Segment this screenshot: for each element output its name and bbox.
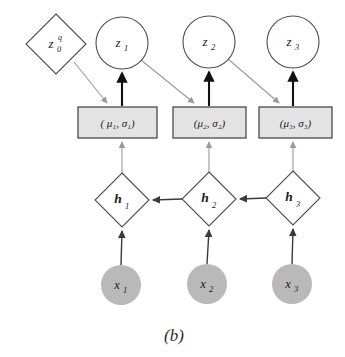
params-1-label: ( μ₁, σ₁) <box>100 117 135 130</box>
node-params-3[interactable]: (μ₃, σ₃) <box>259 107 332 138</box>
x2-circle-shape <box>187 264 227 304</box>
node-z3[interactable]: z 3 <box>267 16 319 68</box>
h2-label-base: h <box>201 190 209 205</box>
figure-caption: (b) <box>164 326 184 345</box>
h1-diamond-shape <box>95 173 149 227</box>
edge-z0q-to-p1 <box>74 62 107 103</box>
edge-h3-to-h2 <box>240 198 266 199</box>
z2-circle-shape <box>183 16 235 68</box>
node-x3[interactable]: x 3 <box>272 264 312 304</box>
node-z2[interactable]: z 2 <box>183 16 235 68</box>
node-params-1[interactable]: ( μ₁, σ₁) <box>78 107 157 138</box>
edge-h2-to-h1 <box>153 199 182 200</box>
edge-group-gray-vertical <box>122 142 293 173</box>
z1-label-subscript: 1 <box>124 43 128 53</box>
x3-label-subscript: 3 <box>293 284 298 294</box>
h3-label-base: h <box>285 189 293 204</box>
x3-circle-shape <box>272 264 312 304</box>
edge-z1-to-p2 <box>141 60 194 103</box>
x1-label-subscript: 1 <box>123 285 127 295</box>
node-x2[interactable]: x 2 <box>187 264 227 304</box>
edge-group-input <box>121 229 293 265</box>
node-h1[interactable]: h 1 <box>95 173 149 227</box>
z3-circle-shape <box>267 16 319 68</box>
figure-root: z 0 q z 1 z 2 z 3 ( μ₁, σ₁) (μ₂, σ₂) <box>0 0 345 357</box>
h1-label-base: h <box>114 191 122 206</box>
node-h2[interactable]: h 2 <box>182 172 236 226</box>
z0q-label-base: z <box>47 36 53 51</box>
z1-circle-shape <box>96 17 148 69</box>
edge-x2-to-h2 <box>207 230 209 264</box>
h3-diamond-shape <box>266 171 320 225</box>
edge-group-black-vertical <box>122 72 293 106</box>
z2-label-base: z <box>201 34 207 49</box>
z3-label-base: z <box>285 34 291 49</box>
x3-label-base: x <box>284 277 291 291</box>
z1-label-base: z <box>114 35 120 50</box>
h1-label-subscript: 1 <box>125 201 129 211</box>
h2-diamond-shape <box>182 172 236 226</box>
edge-z2-to-p3 <box>228 59 279 103</box>
params-2-label: (μ₂, σ₂) <box>194 117 226 130</box>
z3-label-subscript: 3 <box>294 42 299 52</box>
node-h3[interactable]: h 3 <box>266 171 320 225</box>
edge-x1-to-h1 <box>121 231 122 265</box>
node-x1[interactable]: x 1 <box>101 265 141 305</box>
edge-x3-to-h3 <box>292 229 293 264</box>
x1-label-base: x <box>113 278 120 292</box>
x2-label-base: x <box>199 277 206 291</box>
node-z1[interactable]: z 1 <box>96 17 148 69</box>
x1-circle-shape <box>101 265 141 305</box>
params-3-label: (μ₃, σ₃) <box>280 117 312 130</box>
edge-group-gray-diagonal <box>74 59 279 103</box>
h3-label-subscript: 3 <box>295 199 300 209</box>
node-params-2[interactable]: (μ₂, σ₂) <box>173 107 246 138</box>
graphical-model-diagram: z 0 q z 1 z 2 z 3 ( μ₁, σ₁) (μ₂, σ₂) <box>0 0 345 357</box>
z0q-label-superscript: q <box>58 33 62 42</box>
